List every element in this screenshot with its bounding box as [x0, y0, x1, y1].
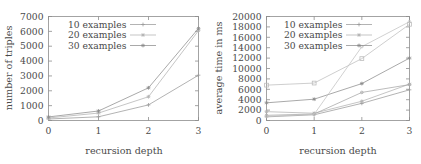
- y-tick-label: 0: [256, 115, 262, 126]
- y-tick-label: 3000: [20, 70, 44, 81]
- series-line: [267, 85, 410, 116]
- y-tick-label: 2000: [20, 85, 44, 96]
- y-tick-label: 16000: [232, 32, 261, 43]
- y-tick-label: 14000: [232, 42, 261, 53]
- y-tick-label: 7000: [20, 11, 44, 22]
- left-xaxis-label: recursion depth: [85, 145, 162, 156]
- x-tick-label: 3: [407, 125, 413, 136]
- y-tick-label: 10000: [232, 63, 261, 74]
- x-tick-label: 2: [146, 125, 152, 136]
- y-tick-label: 18000: [232, 21, 261, 32]
- y-tick-label: 4000: [238, 94, 262, 105]
- x-tick-label: 0: [264, 125, 270, 136]
- y-tick-label: 12000: [232, 52, 261, 63]
- right-chart-svg: 0200040006000800010000120001400016000180…: [210, 0, 421, 164]
- x-tick-label: 0: [46, 125, 52, 136]
- x-tick-label: 2: [359, 125, 365, 136]
- series-line: [49, 75, 199, 119]
- x-tick-label: 1: [96, 125, 102, 136]
- y-tick-label: 1000: [20, 100, 44, 111]
- x-tick-label: 3: [196, 125, 202, 136]
- left-legend: 10 examples20 examples30 examples: [68, 19, 156, 51]
- y-tick-label: 0: [38, 115, 44, 126]
- y-tick-label: 5000: [20, 40, 44, 51]
- chart-panel-right: 0200040006000800010000120001400016000180…: [210, 0, 421, 164]
- right-yaxis-label: average time in ms: [213, 21, 224, 114]
- y-tick-label: 20000: [232, 11, 261, 22]
- legend-label-2: 20 examples: [68, 29, 127, 40]
- y-tick-label: 6000: [20, 26, 44, 37]
- legend-label-1: 10 examples: [284, 19, 343, 30]
- legend-label-1: 10 examples: [68, 19, 127, 30]
- right-xaxis-label: recursion depth: [299, 145, 376, 156]
- legend-label-2: 20 examples: [284, 29, 343, 40]
- right-legend: 10 examples20 examples30 examples: [284, 19, 372, 51]
- legend-label-3: 30 examples: [68, 40, 127, 51]
- y-tick-label: 4000: [20, 55, 44, 66]
- y-tick-label: 2000: [238, 104, 262, 115]
- x-tick-label: 1: [311, 125, 317, 136]
- y-tick-label: 6000: [238, 84, 262, 95]
- legend-label-3: 30 examples: [284, 40, 343, 51]
- left-yaxis-label: number of triples: [3, 26, 14, 111]
- chart-panel-left: 01000200030004000500060007000 0123 10 ex…: [0, 0, 210, 164]
- y-tick-label: 8000: [238, 73, 262, 84]
- left-chart-svg: 01000200030004000500060007000 0123 10 ex…: [0, 0, 210, 164]
- figure-container: 01000200030004000500060007000 0123 10 ex…: [0, 0, 421, 164]
